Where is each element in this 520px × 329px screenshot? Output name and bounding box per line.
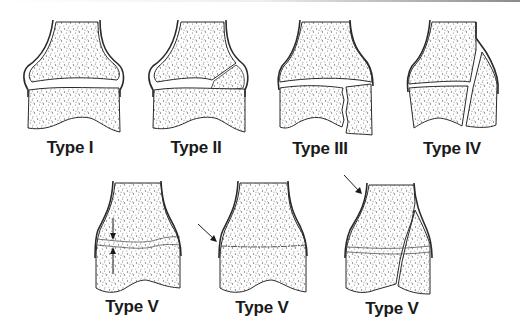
panel-type-5b [198,181,307,292]
label-type-2: Type II [170,138,221,158]
pointer-arrow-icon [344,175,362,194]
label-type-3: Type III [292,139,348,159]
panel-type-1 [24,20,124,132]
salter-harris-diagram [0,0,520,329]
label-type-5a: Type V [105,297,158,317]
panel-type-3 [278,20,373,135]
label-type-5b: Type V [235,298,288,318]
panel-type-5a [95,181,181,292]
panel-type-4 [407,20,498,128]
label-type-5c: Type V [365,299,418,319]
label-type-1: Type I [47,138,94,158]
pointer-arrow-icon [198,224,217,242]
panel-type-2 [149,20,248,132]
label-type-4: Type IV [423,139,481,159]
panel-type-5c [344,175,432,294]
